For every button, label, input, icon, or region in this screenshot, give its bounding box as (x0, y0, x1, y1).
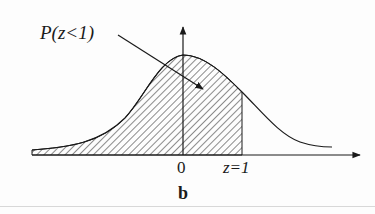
shaded-area (32, 55, 242, 155)
probability-label: P(z<1) (40, 22, 94, 44)
divider (0, 206, 375, 207)
normal-distribution-diagram: P(z<1) 0 z=1 b (0, 0, 375, 214)
tick-label-zero: 0 (177, 158, 186, 178)
tick-label-z1: z=1 (223, 158, 250, 178)
figure-caption: b (178, 183, 188, 204)
